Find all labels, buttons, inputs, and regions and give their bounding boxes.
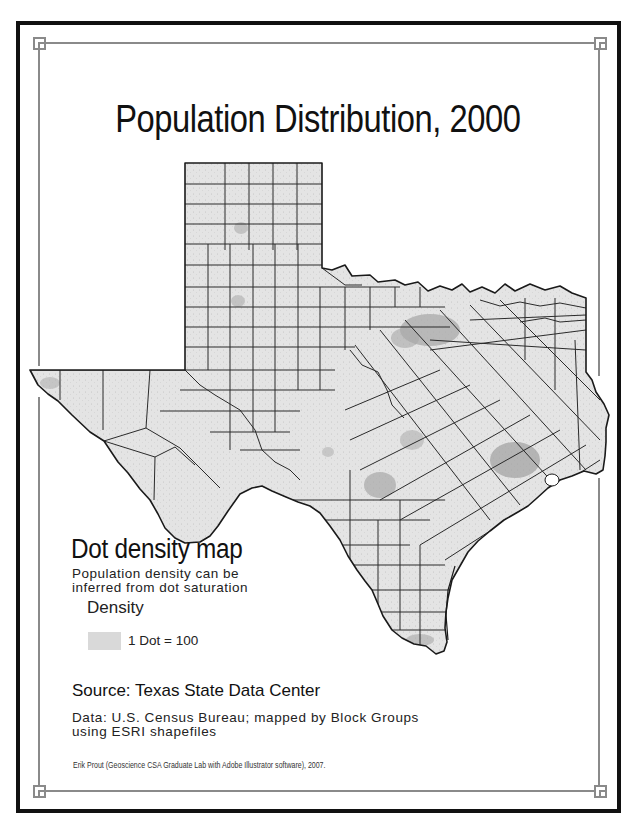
density-swatch-label: 1 Dot = 100: [128, 633, 198, 648]
density-label: Density: [87, 598, 144, 618]
legend-description: Population density can be inferred from …: [72, 567, 248, 595]
source-title: Source: Texas State Data Center: [72, 681, 320, 701]
legend-heading: Dot density map: [71, 534, 243, 565]
data-note-line1: Data: U.S. Census Bureau; mapped by Bloc…: [72, 711, 419, 725]
density-swatch: [88, 632, 121, 650]
galveston-bay: [545, 474, 559, 486]
data-note-line2: using ESRI shapefiles: [72, 725, 419, 739]
legend-description-line2: inferred from dot saturation: [72, 581, 248, 595]
data-note: Data: U.S. Census Bureau; mapped by Bloc…: [72, 711, 419, 739]
legend-description-line1: Population density can be: [72, 567, 248, 581]
author-credit: Erik Prout (Geoscience CSA Graduate Lab …: [73, 760, 325, 770]
